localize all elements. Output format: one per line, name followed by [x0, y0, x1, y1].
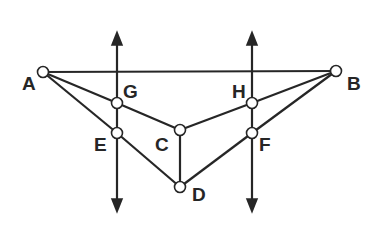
- point-b: [331, 66, 342, 77]
- points: [38, 66, 342, 193]
- label-d: D: [192, 184, 206, 205]
- point-d: [175, 182, 186, 193]
- segment-ed: [117, 133, 180, 187]
- segment-hb: [252, 71, 336, 103]
- point-f: [247, 128, 258, 139]
- geometry-diagram: ABGECDHF: [0, 0, 375, 231]
- segment-gc: [117, 103, 180, 130]
- label-b: B: [347, 73, 361, 94]
- label-f: F: [259, 134, 271, 155]
- label-g: G: [123, 81, 138, 102]
- label-c: C: [155, 134, 169, 155]
- point-a: [38, 67, 49, 78]
- segment-ag: [43, 72, 117, 103]
- segment-df: [180, 133, 252, 187]
- label-e: E: [94, 134, 107, 155]
- segment-ab: [43, 71, 336, 72]
- parallel-vertical-lines: [117, 38, 252, 206]
- point-labels: ABGECDHF: [22, 73, 361, 205]
- point-c: [175, 125, 186, 136]
- segment-fb: [252, 71, 336, 133]
- point-g: [112, 98, 123, 109]
- point-h: [247, 98, 258, 109]
- label-h: H: [232, 81, 246, 102]
- segment-ch: [180, 103, 252, 130]
- segments: [43, 71, 336, 187]
- point-e: [112, 128, 123, 139]
- label-a: A: [22, 73, 36, 94]
- segment-ae: [43, 72, 117, 133]
